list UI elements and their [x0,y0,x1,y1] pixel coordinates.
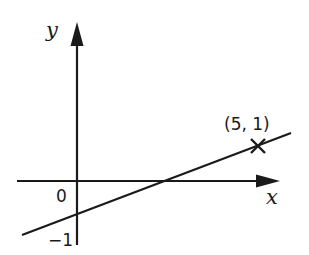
point-cross-icon [251,139,265,153]
y-axis-arrow-icon [71,22,84,46]
y-intercept-label: −1 [48,230,73,250]
graph-line [22,133,291,235]
point-label: (5, 1) [224,114,270,134]
origin-label: 0 [56,186,67,206]
x-axis-label: x [266,185,278,209]
coordinate-graph: y x 0 −1 (5, 1) [0,0,309,255]
y-axis-label: y [45,18,59,42]
